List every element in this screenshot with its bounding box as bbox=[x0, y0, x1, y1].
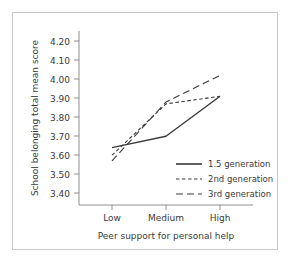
y-tick-label-420: 4.20 bbox=[50, 37, 70, 47]
line-chart: 4.20 4.10 4.00 3.90 3.80 3.70 3.60 3.50 … bbox=[0, 0, 292, 271]
y-tick-label-370: 3.70 bbox=[50, 132, 70, 142]
y-tick-label-400: 4.00 bbox=[50, 75, 70, 85]
legend-label-3rd-generation: 3rd generation bbox=[208, 189, 271, 199]
y-axis-title: School belonging total mean score bbox=[30, 39, 40, 196]
legend: 1.5 generation 2nd generation 3rd genera… bbox=[176, 159, 273, 199]
x-tick-label-high: High bbox=[210, 213, 231, 223]
series-line-3rd-generation bbox=[112, 75, 220, 160]
series-line-2nd-generation bbox=[112, 96, 220, 155]
x-axis-ticks bbox=[112, 205, 220, 210]
y-tick-label-360: 3.60 bbox=[50, 151, 70, 161]
y-axis-ticks bbox=[74, 41, 79, 193]
y-tick-label-410: 4.10 bbox=[50, 56, 70, 66]
x-tick-label-low: Low bbox=[103, 213, 121, 223]
y-tick-label-350: 3.50 bbox=[50, 170, 70, 180]
x-axis-title: Peer support for personal help bbox=[98, 231, 235, 241]
legend-label-2nd-generation: 2nd generation bbox=[208, 174, 273, 184]
figure-container: 4.20 4.10 4.00 3.90 3.80 3.70 3.60 3.50 … bbox=[0, 0, 292, 271]
y-tick-label-340: 3.40 bbox=[50, 189, 70, 199]
y-tick-label-380: 3.80 bbox=[50, 113, 70, 123]
y-tick-label-390: 3.90 bbox=[50, 94, 70, 104]
x-tick-label-medium: Medium bbox=[148, 213, 184, 223]
legend-label-1-5-generation: 1.5 generation bbox=[208, 159, 270, 169]
